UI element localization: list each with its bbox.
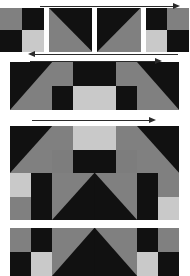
diagonal-shape [10,62,52,110]
mosaic-cell [95,228,137,276]
quad-swatch-1 [31,228,52,252]
mosaic-cell [52,126,94,173]
block-strip-4x1 [10,62,179,110]
quad-swatch-2 [52,150,73,174]
quad-swatch-1 [73,126,94,150]
quad-swatch-1 [22,8,44,30]
mosaic-cell [10,173,52,220]
quad-swatch-3 [116,86,137,110]
diagonal-shape [10,126,52,173]
arrow-row3-top [32,116,156,125]
quad-swatch-2 [146,30,168,52]
mosaic-cell [52,62,94,110]
quad-swatch-1 [31,173,52,197]
quad-swatch-1 [116,126,137,150]
diagonal-shape [95,228,137,276]
diagonal-shape [137,126,179,173]
quad-swatch-3 [167,30,189,52]
quad-swatch-2 [10,197,31,221]
quad-swatch-2 [95,86,116,110]
mosaic-cell [10,126,52,173]
tile-diagonal-b [97,8,141,52]
arrow-top [40,2,180,11]
quad-swatch-0 [137,228,158,252]
mosaic-cell [137,62,179,110]
quad-swatch-3 [73,86,94,110]
diagonal-shape [137,62,179,110]
quad-swatch-3 [31,252,52,276]
mosaic-cell [10,62,52,110]
quad-swatch-0 [0,8,22,30]
arrow-head-icon [173,3,180,9]
diagonal-shape [97,8,141,52]
diagonal-shape [52,228,94,276]
block-mosaic-cropped [10,228,179,276]
figure-canvas [0,0,189,245]
quad-swatch-0 [10,228,31,252]
quad-swatch-3 [22,30,44,52]
tile-diagonal-a [49,8,93,52]
arrow-shaft [40,6,174,7]
mosaic-cell [137,126,179,173]
arrow-head-icon [155,58,162,64]
quad-swatch-3 [158,197,179,221]
arrow-head-icon [149,117,156,123]
diagonal-shape [52,173,94,220]
quad-swatch-2 [0,30,22,52]
quad-swatch-0 [137,173,158,197]
arrow-shaft [30,61,156,62]
quad-swatch-0 [95,126,116,150]
quad-swatch-0 [146,8,168,30]
diagonal-shape [49,8,93,52]
quad-swatch-3 [158,252,179,276]
mosaic-cell [95,173,137,220]
quad-swatch-3 [116,150,137,174]
quad-swatch-2 [10,252,31,276]
quad-swatch-3 [73,150,94,174]
block-tile-row [0,8,189,52]
mosaic-cell [137,228,179,276]
quad-swatch-0 [10,173,31,197]
mosaic-cell [137,173,179,220]
quad-swatch-0 [52,126,73,150]
mosaic-cell [95,62,137,110]
tile-checker-a [0,8,44,52]
quad-swatch-1 [158,173,179,197]
arrow-shaft [34,54,178,55]
mosaic-cell [95,126,137,173]
arrow-row2-top [30,57,162,66]
quad-swatch-2 [137,197,158,221]
quad-swatch-2 [137,252,158,276]
quad-swatch-2 [95,150,116,174]
quad-swatch-1 [167,8,189,30]
arrow-shaft [32,120,150,121]
mosaic-cell [10,228,52,276]
tile-checker-b [146,8,190,52]
quad-swatch-3 [31,197,52,221]
block-mosaic-4x2 [10,126,179,220]
diagonal-shape [95,173,137,220]
quad-swatch-2 [52,86,73,110]
quad-swatch-1 [158,228,179,252]
mosaic-cell [52,228,94,276]
mosaic-cell [52,173,94,220]
